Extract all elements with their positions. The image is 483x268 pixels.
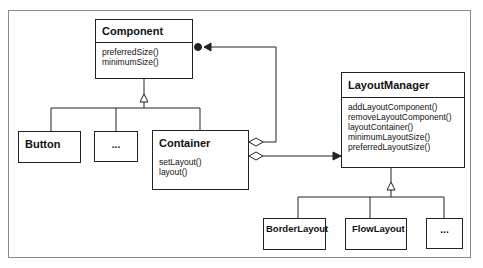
inheritance-triangle-icon xyxy=(140,94,148,102)
class-name: FlowLayout xyxy=(346,219,406,239)
operation: removeLayoutComponent() xyxy=(348,112,458,122)
class-name: Component xyxy=(96,20,192,42)
class-border-layout[interactable]: BorderLayout xyxy=(263,218,326,250)
operation: minimumSize() xyxy=(102,57,186,67)
class-name: Container xyxy=(153,131,248,155)
class-name: LayoutManager xyxy=(342,73,464,97)
class-layout-manager[interactable]: LayoutManager addLayoutComponent() remov… xyxy=(341,72,465,168)
class-layout-more[interactable]: ... xyxy=(426,218,463,249)
class-operations: addLayoutComponent() removeLayoutCompone… xyxy=(342,97,464,156)
arrowhead-icon xyxy=(204,43,211,51)
many-dot-icon xyxy=(195,44,202,51)
class-name: ... xyxy=(95,132,137,158)
class-component-more[interactable]: ... xyxy=(94,131,138,162)
class-operations: preferredSize() minimumSize() xyxy=(96,42,192,71)
operation: layout() xyxy=(159,167,242,177)
arrowhead-icon xyxy=(333,152,341,160)
aggregation-diamond-icon xyxy=(249,138,263,146)
class-operations: setLayout() layout() xyxy=(153,155,248,181)
class-component[interactable]: Component preferredSize() minimumSize() xyxy=(95,19,193,79)
aggregation-diamond-icon xyxy=(249,152,263,160)
operation: preferredLayoutSize() xyxy=(348,142,458,152)
class-name: BorderLayout xyxy=(264,219,325,239)
operation: minimumLayoutSize() xyxy=(348,132,458,142)
class-flow-layout[interactable]: FlowLayout xyxy=(345,218,407,250)
class-name: ... xyxy=(427,219,462,241)
operation: addLayoutComponent() xyxy=(348,102,458,112)
operation: setLayout() xyxy=(159,157,242,167)
children-aggregation-line xyxy=(204,47,276,142)
class-name: Button xyxy=(19,132,80,156)
operation: layoutContainer() xyxy=(348,122,458,132)
class-button[interactable]: Button xyxy=(18,131,81,163)
operation: preferredSize() xyxy=(102,47,186,57)
inheritance-triangle-icon xyxy=(387,182,395,190)
class-container[interactable]: Container setLayout() layout() xyxy=(152,130,249,190)
